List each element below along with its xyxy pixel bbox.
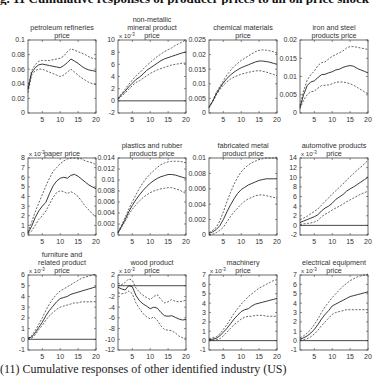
y-tick-label: 7 [202,271,206,278]
panel-title: price [54,266,70,275]
axis-exponent: x 10-3 [301,267,317,275]
x-tick-label: 5 [130,353,134,360]
y-tick-label: 0.02 [192,51,206,58]
panel-iron-and-steel-products-price: iron and steelproducts price00.0050.010.… [279,23,372,123]
y-tick-label: 4 [21,293,25,300]
y-tick-label: 7 [293,271,297,278]
y-tick-label: 0 [202,109,206,116]
y-tick-label: 0 [293,109,297,116]
y-tick-label: -1 [19,346,25,353]
x-tick-label: 5 [221,238,225,245]
y-tick-label: 0.1 [15,36,25,43]
y-tick-label: -6 [109,314,115,321]
y-tick-label: 1 [21,222,25,229]
y-tick-label: 6 [21,271,25,278]
y-tick-label: 0 [202,231,206,238]
y-tick-label: 0 [21,336,25,343]
y-tick-label: 0.005 [188,95,206,102]
y-tick-label: 0.015 [279,55,297,62]
y-tick-label: 0.01 [192,154,206,161]
y-tick-label: 0.008 [97,187,115,194]
y-tick-label: 0.015 [188,66,206,73]
y-tick-label: 3 [293,309,297,316]
x-tick-label: 5 [221,116,225,123]
plot-frame [300,40,368,113]
y-tick-label: 0.006 [97,198,115,205]
plot-frame [28,275,96,350]
y-tick-label: 1 [21,325,25,332]
y-tick-label: 6 [111,61,115,68]
y-tick-label: 0 [21,109,25,116]
panel-title: price [235,266,251,275]
plot-frame [209,40,277,113]
series-lower [209,315,277,340]
panel-title: products price [311,31,356,40]
x-tick-label: 15 [164,238,172,245]
y-tick-label: -2 [109,293,115,300]
plot-frame [209,158,277,235]
x-tick-label: 10 [328,353,336,360]
y-tick-label: 4 [293,203,297,210]
series-estimate [300,177,368,222]
y-tick-label: -4 [109,304,115,311]
series-estimate [209,61,277,107]
plot-frame [118,158,186,235]
y-tick-label: 14 [289,154,297,161]
x-tick-label: 5 [130,238,134,245]
x-tick-label: 15 [346,116,354,123]
panel-title: paper price [44,149,80,158]
y-tick-label: 6 [293,193,297,200]
panel-non-metallic-mineral-product-price: non-metallicmineral productpricex 10-3-2… [107,15,190,123]
series-lower [300,310,368,340]
panel-title: products price [129,149,174,158]
y-tick-label: 0 [111,282,115,289]
series-upper [209,50,277,107]
axis-exponent: x 10-3 [29,267,45,275]
y-tick-label: 0 [111,97,115,104]
y-tick-label: 0.02 [11,95,25,102]
series-lower [300,82,368,109]
panel-petroleum-refineries-price: petroleum refineriesprice00.020.040.060.… [11,23,100,123]
y-tick-label: 4 [293,300,297,307]
y-tick-label: -8 [109,325,115,332]
series-estimate [118,52,186,99]
plot-frame [28,40,96,113]
x-tick-label: 20 [182,353,190,360]
y-tick-label: 0.002 [188,216,206,223]
y-tick-label: 0 [21,231,25,238]
y-tick-label: 2 [21,212,25,219]
x-tick-label: 10 [146,238,154,245]
series-upper [300,160,368,219]
y-tick-label: 5 [21,282,25,289]
y-tick-label: 0.004 [97,209,115,216]
x-tick-label: 20 [92,238,100,245]
x-tick-label: 20 [273,353,281,360]
series-lower [118,63,186,100]
panel-plastics-and-rubber-products-price: plastics and rubberproducts price00.0020… [97,141,190,245]
x-tick-label: 10 [237,116,245,123]
y-tick-label: 2 [293,212,297,219]
y-tick-label: 5 [202,290,206,297]
y-tick-label: 2 [111,271,115,278]
panel-title: price [326,149,342,158]
x-tick-label: 10 [237,238,245,245]
series-upper [118,279,186,303]
y-tick-label: 3 [202,309,206,316]
series-lower [118,188,186,234]
y-tick-label: 0.01 [192,80,206,87]
y-tick-label: 0.01 [283,73,297,80]
x-tick-label: 5 [221,353,225,360]
x-tick-label: 20 [273,238,281,245]
x-tick-label: 20 [182,238,190,245]
series-estimate [28,174,96,233]
panel-chemical-materials-price: chemical materialsprice00.0050.010.0150.… [188,23,281,123]
series-lower [28,302,96,338]
x-tick-label: 20 [92,116,100,123]
panel-wood-product-price: wood productpricex 10-3-12-10-8-6-4-2025… [105,258,190,360]
series-upper [209,157,277,232]
x-tick-label: 10 [56,238,64,245]
x-tick-label: 10 [328,116,336,123]
panel-title: price [144,31,160,40]
series-estimate [209,298,277,339]
series-estimate [28,287,96,338]
